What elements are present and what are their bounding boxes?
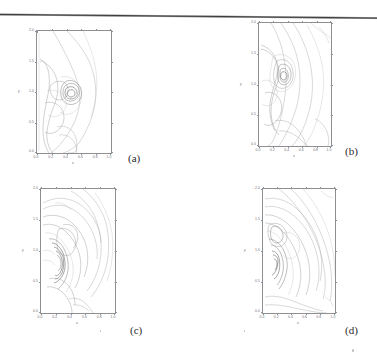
- x-tick: [37, 31, 38, 33]
- x-ticklabel: 0.4: [63, 155, 68, 159]
- y-tick: [115, 251, 117, 252]
- scan-speck: [244, 330, 245, 332]
- x-axis-title: x: [293, 154, 295, 158]
- y-tick: [111, 123, 113, 124]
- x-tick: [81, 29, 82, 31]
- y-tick: [39, 251, 41, 252]
- y-ticklabel: 0.0: [250, 309, 260, 313]
- y-ticklabel: 1.0: [250, 248, 260, 252]
- y-ticklabel: 1.0: [246, 82, 256, 86]
- y-ticklabel: 0.0: [246, 142, 256, 146]
- x-ticklabel: 0.4: [67, 315, 72, 319]
- scan-speck: [352, 349, 354, 352]
- x-ticklabel: 0.0: [256, 148, 261, 152]
- y-tick: [331, 145, 333, 146]
- y-tick: [335, 251, 337, 252]
- x-ticklabel: 0.6: [78, 155, 83, 159]
- plot-area-b: [258, 22, 332, 147]
- y-ticklabel: 1.5: [24, 59, 34, 63]
- y-ticklabel: 2.0: [28, 186, 38, 190]
- panel-b: 2.0 1.5 1.0 0.5 0.0 0.0 0.2 0.4 0.6 0.8 …: [258, 22, 330, 145]
- y-tick: [39, 220, 41, 221]
- y-ticklabel: 0.5: [246, 112, 256, 116]
- y-ticklabel: 0.5: [28, 279, 38, 283]
- y-tick: [331, 54, 333, 55]
- x-tick: [52, 29, 53, 31]
- scan-speck: [100, 330, 101, 332]
- y-tick: [115, 189, 117, 190]
- x-ticklabel: 0.4: [288, 315, 293, 319]
- x-ticklabel: 0.6: [299, 148, 304, 152]
- x-tick: [306, 187, 307, 189]
- panel-c: 2.0 1.5 1.0 0.5 0.0 0.0 0.2 0.4 0.6 0.8 …: [40, 188, 114, 312]
- panel-d: 2.0 1.5 1.0 0.5 0.0 0.0 0.2 0.4 0.6 0.8 …: [262, 188, 334, 312]
- x-ticklabel: 0.8: [93, 155, 98, 159]
- y-tick: [261, 220, 263, 221]
- y-tick: [39, 312, 41, 313]
- y-tick: [39, 282, 41, 283]
- panel-label-c: (c): [130, 324, 142, 336]
- x-tick: [41, 187, 42, 189]
- y-tick: [257, 85, 259, 86]
- y-tick: [257, 145, 259, 146]
- x-tick: [302, 21, 303, 23]
- x-tick: [320, 187, 321, 189]
- y-ticklabel: 1.0: [28, 248, 38, 252]
- y-tick: [111, 92, 113, 93]
- x-ticklabel: 0.4: [284, 148, 289, 152]
- contour-field-b: [259, 23, 331, 146]
- x-axis-title: x: [76, 321, 78, 325]
- x-ticklabel: 1.0: [331, 315, 336, 319]
- x-tick: [259, 21, 260, 23]
- contour-field-a: [37, 31, 111, 153]
- x-ticklabel: 0.0: [260, 315, 265, 319]
- y-tick: [261, 251, 263, 252]
- y-ticklabel: 0.5: [250, 279, 260, 283]
- x-ticklabel: 0.0: [38, 315, 43, 319]
- contour-field-d: [263, 189, 335, 313]
- y-tick: [261, 312, 263, 313]
- x-tick: [56, 187, 57, 189]
- x-ticklabel: 0.8: [97, 315, 102, 319]
- y-tick: [331, 85, 333, 86]
- y-tick: [111, 152, 113, 153]
- panel-label-d: (d): [345, 324, 358, 336]
- x-tick: [288, 21, 289, 23]
- x-tick: [85, 187, 86, 189]
- y-axis-title: y: [18, 89, 20, 93]
- y-tick: [35, 62, 37, 63]
- y-tick: [35, 123, 37, 124]
- x-ticklabel: 0.2: [274, 315, 279, 319]
- y-tick: [115, 282, 117, 283]
- y-ticklabel: 0.0: [28, 309, 38, 313]
- x-ticklabel: 0.2: [270, 148, 275, 152]
- x-tick: [263, 187, 264, 189]
- y-tick: [115, 312, 117, 313]
- y-tick: [35, 31, 37, 32]
- x-ticklabel: 0.6: [82, 315, 87, 319]
- x-tick: [273, 21, 274, 23]
- contour-field-c: [41, 189, 115, 313]
- y-ticklabel: 0.0: [24, 149, 34, 153]
- y-tick: [335, 282, 337, 283]
- y-ticklabel: 2.0: [24, 28, 34, 32]
- x-tick: [100, 187, 101, 189]
- x-tick: [291, 187, 292, 189]
- y-axis-title: y: [22, 248, 24, 252]
- y-tick: [35, 92, 37, 93]
- y-tick: [111, 31, 113, 32]
- y-tick: [331, 115, 333, 116]
- y-ticklabel: 1.0: [24, 89, 34, 93]
- y-tick: [39, 189, 41, 190]
- x-ticklabel: 0.2: [48, 155, 53, 159]
- y-tick: [115, 220, 117, 221]
- y-tick: [335, 220, 337, 221]
- x-tick: [96, 29, 97, 31]
- x-ticklabel: 0.0: [34, 155, 39, 159]
- x-ticklabel: 0.8: [316, 315, 321, 319]
- y-tick: [335, 189, 337, 190]
- y-ticklabel: 1.5: [250, 217, 260, 221]
- plot-area-a: [36, 30, 112, 154]
- panel-label-b: (b): [345, 145, 358, 157]
- y-ticklabel: 1.5: [246, 51, 256, 55]
